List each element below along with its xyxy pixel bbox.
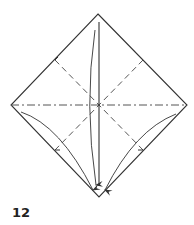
step-number-label: 12 (12, 205, 30, 220)
top-fold-arrow-icon (90, 30, 96, 185)
left-fold-arrow-icon (21, 112, 93, 190)
right-fold-arrow-icon (105, 114, 176, 190)
origami-diagram (0, 0, 194, 225)
